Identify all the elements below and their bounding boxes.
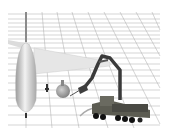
scene-render <box>0 0 171 139</box>
airplane <box>8 12 110 118</box>
